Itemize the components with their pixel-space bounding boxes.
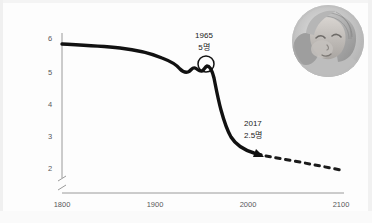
x-tick-2000: 2000 xyxy=(240,200,257,209)
series-observed-line xyxy=(62,44,261,155)
y-tick-6: 6 xyxy=(48,34,52,43)
y-tick-3: 3 xyxy=(48,132,52,141)
annotation-1965-year: 1965 xyxy=(195,31,213,40)
y-tick-2: 2 xyxy=(48,164,52,173)
chart-canvas: 6 5 4 3 2 1800 1900 2000 2100 1965 5명 20… xyxy=(0,0,372,223)
annotation-2017-year: 2017 xyxy=(244,119,262,128)
x-tick-1900: 1900 xyxy=(147,200,164,209)
baby-photo xyxy=(292,5,364,77)
series-projection-line xyxy=(266,156,341,170)
arrow-head-2017 xyxy=(253,149,264,157)
x-tick-2100: 2100 xyxy=(333,200,350,209)
annotation-1965-value: 5명 xyxy=(198,42,209,52)
x-tick-1800: 1800 xyxy=(54,200,71,209)
y-axis-break-mark xyxy=(58,176,66,190)
baby-photo-illustration xyxy=(292,5,364,77)
y-tick-5: 5 xyxy=(48,68,52,77)
annotation-2017-value: 2.5명 xyxy=(244,130,262,140)
marker-circle-1965 xyxy=(198,56,214,72)
y-tick-4: 4 xyxy=(48,100,52,109)
